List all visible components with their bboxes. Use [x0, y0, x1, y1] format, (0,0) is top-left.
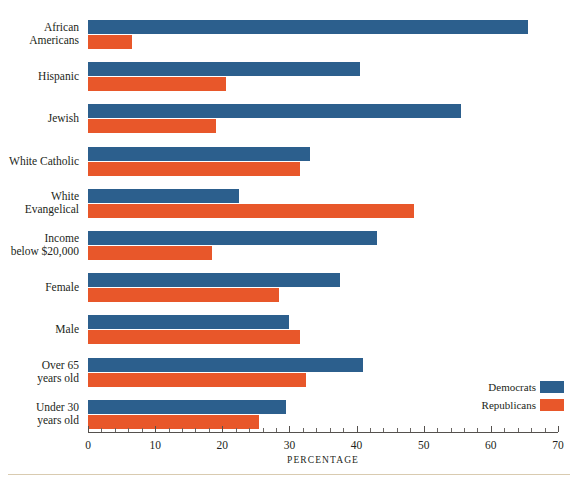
bar-chart-figure: AfricanAmericansHispanicJewishWhite Cath…	[0, 0, 578, 485]
x-tick-minor	[276, 428, 277, 433]
x-tick-minor	[236, 428, 237, 433]
x-tick-major	[88, 426, 89, 433]
x-tick-major	[558, 426, 559, 433]
bar-group	[88, 315, 558, 344]
category-label-line: Over 65	[2, 359, 79, 372]
legend-entry-republicans: Republicans	[452, 398, 564, 413]
category-label: Incomebelow $20,000	[2, 232, 88, 258]
x-tick-minor	[437, 428, 438, 433]
bar-republicans	[88, 204, 414, 218]
x-tick-minor	[303, 428, 304, 433]
category-label: WhiteEvangelical	[2, 190, 88, 216]
category-label-line: Female	[2, 281, 79, 294]
x-tick-major	[155, 426, 156, 433]
bar-republicans	[88, 288, 279, 302]
bar-group	[88, 62, 558, 91]
x-tick-label: 20	[217, 439, 229, 451]
bar-democrats	[88, 400, 286, 414]
x-tick-minor	[169, 428, 170, 433]
bar-republicans	[88, 373, 306, 387]
x-tick-label: 60	[485, 439, 497, 451]
bar-group	[88, 231, 558, 260]
bar-democrats	[88, 104, 461, 118]
x-tick-label: 40	[351, 439, 363, 451]
x-tick-label: 10	[149, 439, 161, 451]
x-tick-minor	[410, 428, 411, 433]
x-tick-minor	[101, 428, 102, 433]
x-tick-minor	[397, 428, 398, 433]
x-tick-minor	[182, 428, 183, 433]
bar-group	[88, 20, 558, 49]
bar-democrats	[88, 147, 310, 161]
bar-republicans	[88, 35, 132, 49]
x-tick-minor	[128, 428, 129, 433]
category-axis-labels: AfricanAmericansHispanicJewishWhite Cath…	[0, 10, 88, 432]
x-tick-major	[491, 426, 492, 433]
category-label: Jewish	[2, 112, 88, 125]
category-label-line: Hispanic	[2, 70, 79, 83]
x-tick-label: 50	[418, 439, 430, 451]
category-label-line: Americans	[2, 34, 79, 47]
x-tick-major	[222, 426, 223, 433]
bar-group	[88, 189, 558, 218]
x-axis-title: PERCENTAGE	[88, 455, 558, 465]
bar-democrats	[88, 62, 360, 76]
bar-democrats	[88, 189, 239, 203]
x-tick-label: 0	[85, 439, 91, 451]
x-tick-minor	[451, 428, 452, 433]
category-label: White Catholic	[2, 155, 88, 168]
x-tick-minor	[263, 428, 264, 433]
category-label: Under 30years old	[2, 401, 88, 427]
x-tick-major	[424, 426, 425, 433]
x-tick-minor	[545, 428, 546, 433]
x-tick-minor	[209, 428, 210, 433]
x-tick-minor	[370, 428, 371, 433]
plot-area	[88, 10, 558, 432]
bar-group	[88, 104, 558, 133]
category-label-line: Evangelical	[2, 203, 79, 216]
category-label: AfricanAmericans	[2, 21, 88, 47]
x-tick-minor	[343, 428, 344, 433]
x-tick-minor	[115, 428, 116, 433]
chart-title-band	[0, 0, 578, 9]
bar-group	[88, 273, 558, 302]
x-tick-major	[357, 426, 358, 433]
x-tick-minor	[195, 428, 196, 433]
bar-republicans	[88, 162, 300, 176]
x-tick-label: 70	[552, 439, 564, 451]
bar-democrats	[88, 358, 363, 372]
category-label-line: Male	[2, 323, 79, 336]
category-label-line: Jewish	[2, 112, 79, 125]
x-tick-minor	[477, 428, 478, 433]
category-label: Hispanic	[2, 70, 88, 83]
category-label-line: years old	[2, 414, 79, 427]
bar-democrats	[88, 231, 377, 245]
category-label-line: African	[2, 21, 79, 34]
x-tick-minor	[142, 428, 143, 433]
category-label-line: White	[2, 190, 79, 203]
footer-rule	[8, 474, 570, 475]
bar-republicans	[88, 119, 216, 133]
x-axis: 010203040506070	[88, 432, 558, 433]
bar-republicans	[88, 246, 212, 260]
bar-democrats	[88, 20, 528, 34]
x-tick-minor	[518, 428, 519, 433]
x-tick-minor	[383, 428, 384, 433]
x-tick-minor	[464, 428, 465, 433]
legend-entry-democrats: Democrats	[452, 380, 564, 395]
category-label-line: Under 30	[2, 401, 79, 414]
x-tick-minor	[249, 428, 250, 433]
category-label: Female	[2, 281, 88, 294]
category-label-line: years old	[2, 372, 79, 385]
bar-republicans	[88, 330, 300, 344]
category-label-line: Income	[2, 232, 79, 245]
legend-label-democrats: Democrats	[488, 380, 536, 394]
category-label: Over 65years old	[2, 359, 88, 385]
x-tick-label: 30	[284, 439, 296, 451]
bar-democrats	[88, 315, 289, 329]
category-label-line: White Catholic	[2, 155, 79, 168]
x-tick-minor	[316, 428, 317, 433]
legend: Democrats Republicans	[452, 380, 564, 416]
category-label: Male	[2, 323, 88, 336]
bar-group	[88, 147, 558, 176]
